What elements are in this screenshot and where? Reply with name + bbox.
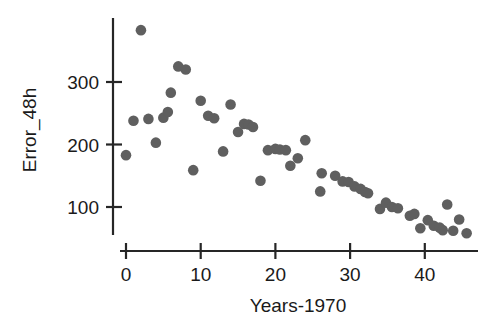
- data-point: [415, 223, 426, 234]
- data-point: [437, 225, 448, 236]
- data-point: [163, 107, 174, 118]
- y-tick-label-300: 300: [67, 72, 99, 93]
- data-point: [363, 188, 374, 199]
- data-point: [315, 186, 326, 197]
- data-point: [128, 115, 139, 126]
- data-point: [151, 137, 162, 148]
- y-tick-label-group: 100200300: [67, 72, 99, 218]
- data-point: [454, 214, 465, 225]
- scatter-plot: 100200300 010203040 Years-1970 Error_48h: [0, 0, 497, 334]
- data-point: [121, 150, 132, 161]
- data-point: [316, 168, 327, 179]
- x-tick-label-40: 40: [414, 264, 435, 285]
- chart-figure: 100200300 010203040 Years-1970 Error_48h: [0, 0, 497, 334]
- data-point: [293, 153, 304, 164]
- data-point: [409, 209, 420, 220]
- data-point: [180, 64, 191, 75]
- data-point: [248, 122, 259, 133]
- x-tick-label-20: 20: [265, 264, 286, 285]
- data-point: [143, 114, 154, 125]
- data-point: [281, 145, 292, 156]
- data-point: [209, 113, 220, 124]
- data-point: [225, 99, 236, 110]
- data-point-group: [121, 25, 472, 239]
- y-tick-label-200: 200: [67, 135, 99, 156]
- data-point: [136, 25, 147, 36]
- x-axis-title: Years-1970: [250, 295, 346, 316]
- data-point: [218, 146, 229, 157]
- data-point: [300, 135, 311, 146]
- x-tick-label-group: 010203040: [121, 264, 436, 285]
- data-point: [188, 165, 199, 176]
- y-axis-title: Error_48h: [19, 88, 41, 173]
- x-tick-label-0: 0: [121, 264, 132, 285]
- data-point: [448, 225, 459, 236]
- data-point: [461, 228, 472, 239]
- y-tick-label-100: 100: [67, 197, 99, 218]
- x-tick-label-30: 30: [340, 264, 361, 285]
- data-point: [255, 175, 266, 186]
- data-point: [285, 160, 296, 171]
- x-tick-label-10: 10: [190, 264, 211, 285]
- data-point: [195, 95, 206, 106]
- data-point: [166, 87, 177, 98]
- data-point: [442, 199, 453, 210]
- data-point: [393, 203, 404, 214]
